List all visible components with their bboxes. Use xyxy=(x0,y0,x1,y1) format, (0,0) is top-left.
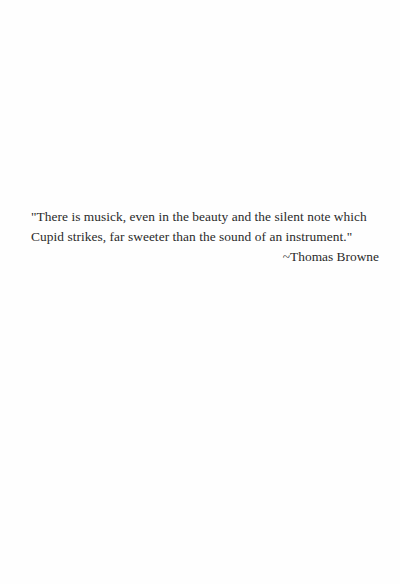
quote-attribution: ~Thomas Browne xyxy=(31,247,381,267)
quote-line-2: Cupid strikes, far sweeter than the soun… xyxy=(31,227,381,247)
quote-line-1: "There is musick, even in the beauty and… xyxy=(31,207,381,227)
page: "There is musick, even in the beauty and… xyxy=(0,0,400,584)
quote-block: "There is musick, even in the beauty and… xyxy=(31,207,381,267)
